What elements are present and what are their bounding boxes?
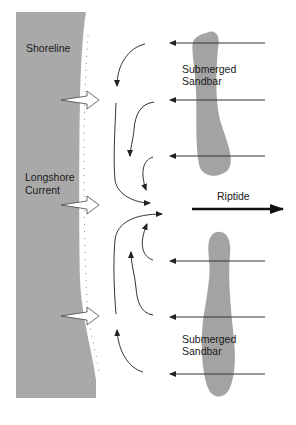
longshore-label-line2: Current [25,184,60,196]
sandbar-top-label-line1: Submerged [182,63,236,75]
shoreline-label: Shoreline [26,42,71,54]
sandbar-bottom [202,232,235,397]
curve-bottom-up [117,330,143,372]
curve-inner-down [143,157,153,190]
riptide-diagram: Shoreline Longshore Current Submerged Sa… [0,0,296,425]
riptide-label: Riptide [217,190,250,202]
curve-inner-up [142,224,153,260]
sandbar-top-label-line2: Sandbar [182,75,222,87]
curve-mid-down [130,102,154,156]
sandbar-top [192,31,230,175]
circulation-arrows [114,44,162,372]
curve-mid-up [131,252,153,315]
sandbar-bottom-label-line1: Submerged [182,333,236,345]
curve-top-down [117,44,145,86]
curve-long-down [114,103,150,203]
sandbar-bottom-label-line2: Sandbar [182,345,222,357]
longshore-label-line1: Longshore [25,171,75,183]
